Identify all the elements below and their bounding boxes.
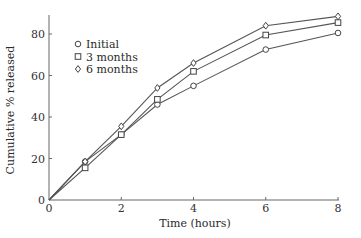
x-tick-label: 2 xyxy=(118,202,125,215)
x-axis-label: Time (hours) xyxy=(159,217,231,230)
circle-marker-icon xyxy=(191,83,197,89)
square-marker-icon xyxy=(155,97,161,103)
legend-diamond-icon xyxy=(75,66,80,73)
legend-label: 6 months xyxy=(86,63,138,76)
diamond-marker-icon xyxy=(191,60,196,67)
legend-square-icon xyxy=(75,54,81,60)
diamond-marker-icon xyxy=(335,13,340,20)
x-tick-label: 0 xyxy=(46,202,53,215)
circle-marker-icon xyxy=(263,47,269,53)
y-tick-label: 80 xyxy=(31,28,45,41)
y-tick-label: 20 xyxy=(31,153,45,166)
square-marker-icon xyxy=(82,165,88,171)
square-marker-icon xyxy=(263,32,269,38)
circle-marker-icon xyxy=(335,30,341,36)
square-marker-icon xyxy=(118,132,124,138)
y-tick-label: 60 xyxy=(31,70,45,83)
y-axis-label: Cumulative % released xyxy=(4,46,17,175)
diamond-marker-icon xyxy=(263,22,268,29)
legend: Initial3 months6 months xyxy=(75,38,138,76)
x-tick-label: 8 xyxy=(335,202,342,215)
x-tick-label: 4 xyxy=(190,202,197,215)
legend-circle-icon xyxy=(75,41,81,47)
x-tick-label: 6 xyxy=(262,202,269,215)
legend-label: 3 months xyxy=(86,51,138,64)
square-marker-icon xyxy=(335,20,341,26)
y-tick-label: 40 xyxy=(31,111,45,124)
legend-label: Initial xyxy=(86,38,119,51)
y-tick-label: 0 xyxy=(38,194,45,207)
chart: 02468020406080 Initial3 months6 months T… xyxy=(0,0,361,238)
square-marker-icon xyxy=(191,69,197,75)
